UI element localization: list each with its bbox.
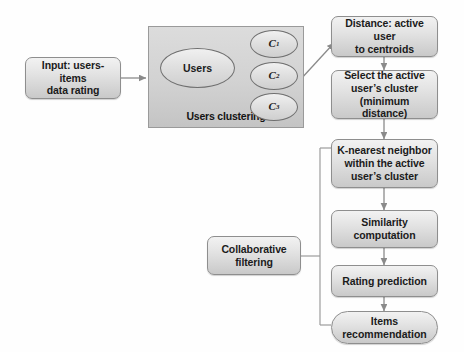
node-cluster-3[interactable]: C3 [250, 93, 298, 121]
node-knn-label-line3: user’s cluster [351, 170, 418, 183]
node-knn-label-line1: K-nearest neighbor [337, 144, 431, 157]
node-cluster-1[interactable]: C1 [250, 30, 298, 58]
node-cluster-2-subscript: 2 [276, 72, 280, 81]
node-select-cluster[interactable]: Select the active user’s cluster (minimu… [331, 70, 438, 119]
node-cluster-3-subscript: 3 [276, 103, 280, 112]
node-cluster-3-label: C [269, 100, 276, 113]
node-input[interactable]: Input: users-items data rating [25, 57, 121, 99]
connector-collaborative-filtering-bracket [300, 148, 331, 325]
node-select-cluster-label-line2: user’s cluster [351, 82, 418, 95]
node-rating-prediction[interactable]: Rating prediction [331, 265, 438, 297]
connector-clustering-to-distance [300, 43, 334, 80]
node-collaborative-filtering-label-line2: filtering [235, 256, 273, 269]
node-select-cluster-label-line3: (minimum distance) [336, 95, 433, 121]
node-input-label-line2: data rating [47, 84, 100, 97]
node-knn[interactable]: K-nearest neighbor within the active use… [331, 139, 438, 188]
node-items-recommendation[interactable]: Items recommendation [331, 311, 438, 344]
node-distance[interactable]: Distance: active user to centroids [331, 16, 438, 57]
node-cluster-1-subscript: 1 [276, 40, 280, 49]
node-users[interactable]: Users [160, 48, 235, 88]
diagram-canvas: Input: users-items data rating Users clu… [0, 0, 464, 352]
node-collaborative-filtering-label-line1: Collaborative [221, 243, 286, 256]
node-select-cluster-label-line1: Select the active [344, 69, 425, 82]
node-distance-label-line2: to centroids [355, 43, 414, 56]
node-knn-label-line2: within the active [345, 157, 425, 170]
node-similarity-label-line1: Similarity [361, 216, 407, 229]
node-distance-label-line1: Distance: active user [336, 17, 433, 43]
node-collaborative-filtering[interactable]: Collaborative filtering [207, 236, 301, 275]
node-items-recommendation-label-line1: Items [371, 315, 398, 328]
node-cluster-2[interactable]: C2 [250, 62, 298, 90]
node-users-label: Users [183, 62, 212, 75]
node-input-label-line1: Input: users-items [30, 59, 116, 85]
node-items-recommendation-label-line2: recommendation [342, 328, 427, 341]
node-rating-prediction-label: Rating prediction [342, 275, 427, 288]
node-similarity[interactable]: Similarity computation [331, 210, 438, 248]
node-similarity-label-line2: computation [354, 229, 416, 242]
node-cluster-2-label: C [269, 69, 276, 82]
node-cluster-1-label: C [269, 37, 276, 50]
